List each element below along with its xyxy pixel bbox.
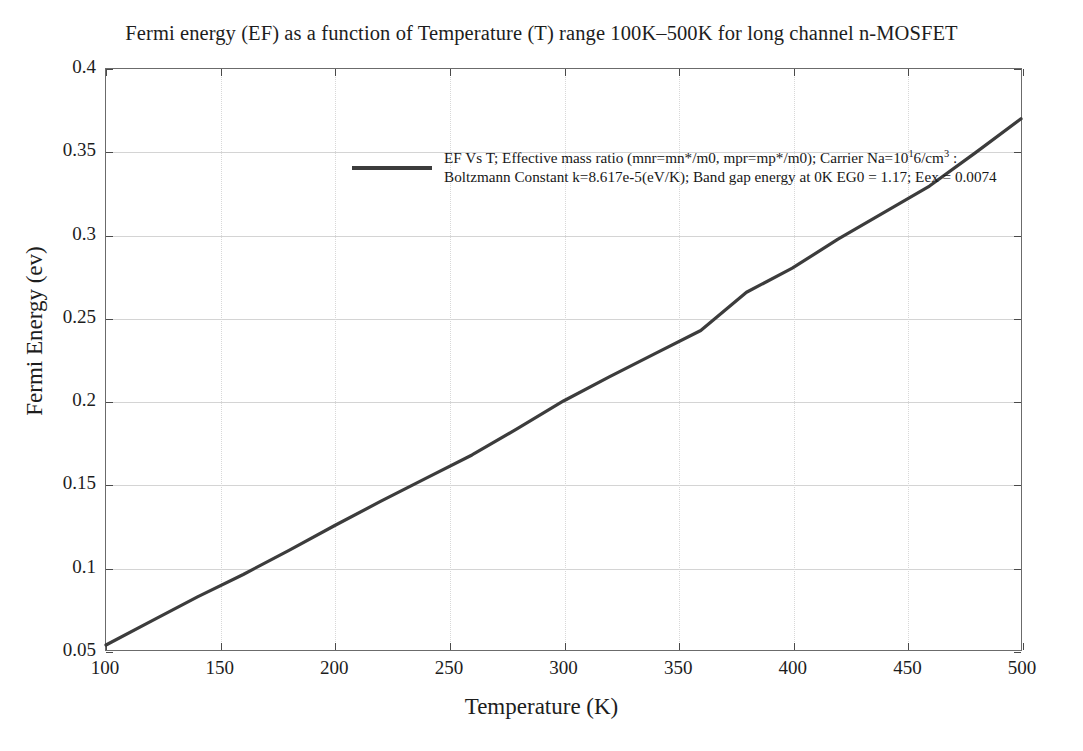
x-tick-label: 200: [294, 657, 374, 679]
x-tick-label: 300: [524, 657, 604, 679]
x-tick-label: 450: [867, 657, 947, 679]
x-tick-mark: [1023, 69, 1024, 76]
legend-text: EF Vs T; Effective mass ratio (mnr=mn*/m…: [444, 149, 997, 186]
legend-line-swatch: [352, 166, 432, 170]
y-tick-label: 0.4: [0, 56, 96, 78]
x-tick-label: 100: [65, 657, 145, 679]
y-tick-mark: [106, 652, 113, 653]
y-tick-label: 0.1: [0, 556, 96, 578]
y-tick-label: 0.15: [0, 472, 96, 494]
y-tick-label: 0.25: [0, 306, 96, 328]
chart-title: Fermi energy (EF) as a function of Tempe…: [0, 22, 1083, 45]
x-tick-label: 400: [753, 657, 833, 679]
x-axis-label: Temperature (K): [0, 694, 1083, 720]
legend-line-1-part-a: EF Vs T; Effective mass ratio (mnr=mn*/m…: [444, 149, 908, 166]
y-tick-label: 0.35: [0, 139, 96, 161]
x-tick-mark: [1023, 643, 1024, 650]
plot-area: EF Vs T; Effective mass ratio (mnr=mn*/m…: [105, 68, 1022, 651]
legend-line-1: EF Vs T; Effective mass ratio (mnr=mn*/m…: [444, 149, 997, 168]
x-tick-label: 150: [180, 657, 260, 679]
y-axis-label: Fermi Energy (ev): [22, 91, 48, 571]
x-tick-label: 250: [409, 657, 489, 679]
y-tick-label: 0.3: [0, 223, 96, 245]
x-tick-label: 500: [982, 657, 1062, 679]
legend-line-2: Boltzmann Constant k=8.617e-5(eV/K); Ban…: [444, 168, 997, 187]
x-tick-label: 350: [638, 657, 718, 679]
y-tick-label: 0.2: [0, 389, 96, 411]
legend: EF Vs T; Effective mass ratio (mnr=mn*/m…: [352, 149, 997, 186]
figure-canvas: Fermi energy (EF) as a function of Tempe…: [0, 0, 1083, 751]
legend-line-1-part-b: 6/cm: [914, 149, 944, 166]
y-tick-mark: [1014, 652, 1021, 653]
legend-line-1-part-c: :: [949, 149, 957, 166]
